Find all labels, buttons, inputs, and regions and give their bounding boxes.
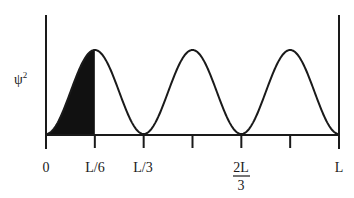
- tick-label-L6: L/6: [85, 160, 104, 175]
- x-axis-ticks: [46, 135, 339, 148]
- tick-label-2L3-numerator: 2L: [233, 160, 249, 175]
- tick-label-L: L: [335, 160, 344, 175]
- probability-density-diagram: ψ2 0 L/6 L/3 2L 3 L: [0, 0, 354, 198]
- y-axis-label: ψ2: [14, 70, 27, 87]
- tick-label-2L3-denominator: 3: [238, 178, 245, 193]
- tick-label-L3: L/3: [133, 160, 152, 175]
- tick-label-0: 0: [43, 160, 50, 175]
